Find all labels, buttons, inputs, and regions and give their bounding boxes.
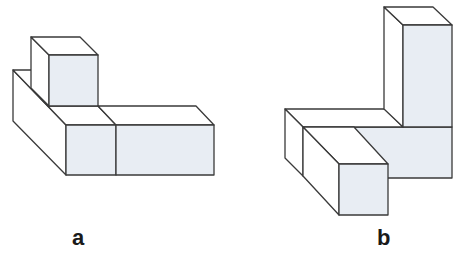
figure-a-right-bar-front	[116, 125, 214, 175]
figure-b-column-front	[403, 25, 452, 127]
figure-a	[13, 37, 214, 175]
figure-a-label: a	[72, 225, 84, 251]
figure-b	[285, 7, 452, 215]
figure-a-top-cube-front	[49, 55, 98, 106]
figure-a-left-bar-front	[66, 125, 116, 175]
figure-b-label: b	[377, 225, 390, 251]
figure-a-right-bar-top	[98, 106, 214, 125]
figure-b-front-bar-front	[339, 164, 388, 215]
figure-b-column-side	[384, 7, 403, 127]
diagram-canvas	[0, 0, 465, 257]
figure-b-slab-top	[285, 109, 403, 127]
